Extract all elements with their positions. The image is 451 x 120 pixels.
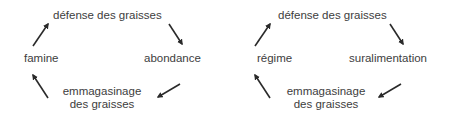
arrow-down-left-icon [158,84,180,97]
node-defense-des-graisses: défense des graisses [278,9,387,22]
arrow-up-right-icon [33,24,48,46]
node-defense-des-graisses: défense des graisses [53,9,162,22]
node-abondance: abondance [144,52,201,65]
node-emmagasinage-des-graisses: emmagasinage des graisses [62,85,142,111]
node-emmagasinage-line2: des graisses [286,98,366,111]
node-emmagasinage-line1: emmagasinage [62,85,142,98]
cycle-regime-suralimentation: défense des graisses suralimentation rég… [225,0,450,120]
arrow-up-right-icon [255,24,270,46]
node-famine: famine [24,52,59,65]
arrow-down-left-icon [379,84,401,97]
node-suralimentation: suralimentation [349,52,427,65]
node-emmagasinage-line2: des graisses [62,98,142,111]
cycle-famine-abondance: défense des graisses abondance famine em… [0,0,225,120]
arrow-up-left-icon [33,75,48,98]
node-emmagasinage-des-graisses: emmagasinage des graisses [286,85,366,111]
arrow-down-right-icon [390,24,403,44]
node-regime: régime [257,52,292,65]
node-emmagasinage-line1: emmagasinage [286,85,366,98]
arrow-up-left-icon [255,75,270,98]
arrow-down-right-icon [169,24,182,44]
